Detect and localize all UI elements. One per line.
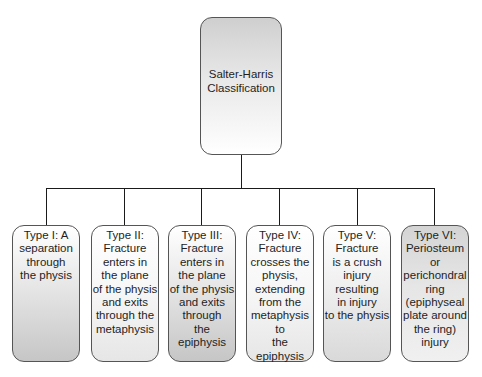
- node-type-v-label: Type V: Fracture is a crush injury resul…: [324, 229, 390, 323]
- root-node-salter-harris: Salter-Harris Classification: [200, 17, 282, 155]
- node-type-iii-label: Type III: Fracture enters in the plane o…: [169, 229, 235, 350]
- node-type-i: Type I: A separation through the physis: [12, 225, 80, 362]
- cropped-header-text: [0, 0, 482, 3]
- node-type-vi-label: Type VI: Periosteum or perichondral ring…: [402, 229, 468, 350]
- connector-root-stem: [241, 155, 242, 189]
- connector-drop-type-i: [46, 188, 47, 225]
- node-type-v: Type V: Fracture is a crush injury resul…: [323, 225, 391, 362]
- connector-horizontal-bar: [46, 188, 435, 189]
- node-type-iv-label: Type IV: Fracture crosses the physis, ex…: [247, 229, 313, 363]
- connector-drop-type-vi: [434, 188, 435, 225]
- connector-drop-type-ii: [124, 188, 125, 225]
- connector-drop-type-iii: [201, 188, 202, 225]
- node-type-i-label: Type I: A separation through the physis: [13, 229, 79, 283]
- connector-drop-type-iv: [279, 188, 280, 225]
- node-type-ii-label: Type II: Fracture enters in the plane of…: [92, 229, 158, 336]
- node-type-iii: Type III: Fracture enters in the plane o…: [168, 225, 236, 362]
- root-node-label: Salter-Harris Classification: [207, 67, 275, 96]
- node-type-vi: Type VI: Periosteum or perichondral ring…: [401, 225, 469, 362]
- node-type-ii: Type II: Fracture enters in the plane of…: [91, 225, 159, 362]
- node-type-iv: Type IV: Fracture crosses the physis, ex…: [246, 225, 314, 362]
- connector-drop-type-v: [357, 188, 358, 225]
